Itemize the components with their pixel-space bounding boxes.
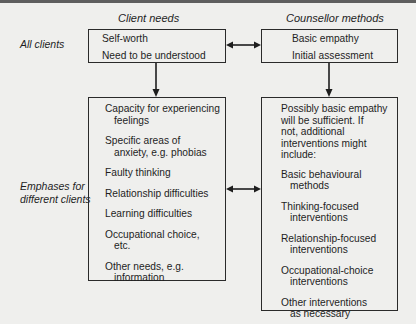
arrow-head-left-icon [226, 42, 233, 49]
arrow-head-down-icon [326, 89, 333, 97]
arrow-head-right-icon [254, 186, 261, 193]
arrow-head-down-icon [153, 89, 160, 97]
arrow-head-right-icon [254, 42, 261, 49]
connector-arrows [0, 0, 416, 324]
arrow-head-left-icon [226, 186, 233, 193]
